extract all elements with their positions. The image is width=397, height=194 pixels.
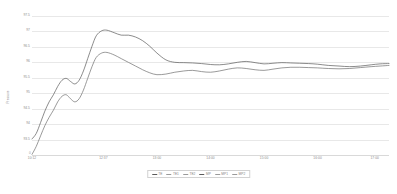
x-axis-tick-label: 10:12 [28,157,37,160]
plot-area [32,16,389,155]
y-axis-tick-label: 94.5 [23,107,30,110]
legend-item[interactable]: MP [199,173,210,176]
legend-swatch [199,174,204,175]
legend-item[interactable]: MP2 [232,173,245,176]
y-axis-tick-label: 95 [26,92,30,95]
x-axis-tick-label: 17:00 [370,157,379,160]
chart-legend: TETE1TE2MPMP1MP2 [147,170,251,178]
legend-label: MP [206,173,211,176]
legend-label: TE2 [189,173,195,176]
legend-label: TE1 [173,173,179,176]
legend-swatch [166,174,171,175]
legend-item[interactable]: TE [152,173,163,176]
legend-label: MP1 [221,173,228,176]
legend-swatch [215,174,220,175]
x-axis-tick-label: 16:00 [313,157,322,160]
legend-item[interactable]: TE2 [183,173,196,176]
x-axis-tick-label: 13:00 [153,157,162,160]
legend-swatch [232,174,237,175]
legend-swatch [183,174,188,175]
y-axis-tick-label: 97.5 [23,14,30,17]
line-chart: Pressure 97.59796.59695.59594.59493.5 0 … [0,0,397,194]
x-axis-tick-label: 14:00 [206,157,215,160]
y-axis-tick-label: 95.5 [23,76,30,79]
legend-label: MP2 [239,173,246,176]
x-axis-tick-label: 12:37 [99,157,108,160]
y-axis-ticks: 97.59796.59695.59594.59493.5 [0,16,30,155]
y-axis-tick-label: 96.5 [23,45,30,48]
legend-swatch [152,174,157,175]
y-axis-tick-label: 93.5 [23,138,30,141]
y-axis-tick-label: 96 [26,61,30,64]
series-line [32,52,389,154]
legend-label: TE [158,173,162,176]
x-axis-origin-label: 0 [29,152,31,155]
y-axis-tick-label: 97 [26,30,30,33]
y-axis-tick-label: 94 [26,122,30,125]
legend-item[interactable]: MP1 [215,173,228,176]
series-layer [32,16,389,155]
legend-item[interactable]: TE1 [166,173,179,176]
x-axis-tick-label: 15:00 [260,157,269,160]
x-axis-ticks: 10:1212:3713:0014:0015:0016:0017:00 [32,157,389,166]
